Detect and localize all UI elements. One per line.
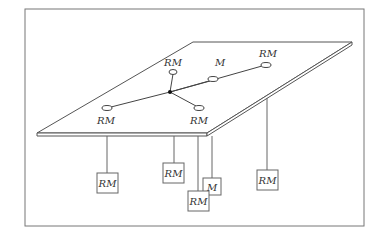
- label-rm-left: RM: [96, 115, 116, 126]
- hub-node: [168, 90, 172, 94]
- label-rm-top: RM: [163, 57, 183, 68]
- box-label-m: M: [206, 182, 218, 193]
- box-label-rm-1: RM: [98, 178, 118, 189]
- label-m: M: [214, 57, 226, 68]
- network-diagram: RM M RM RM RM RM RM M RM RM: [0, 0, 380, 242]
- node-rm-left: [102, 106, 112, 111]
- box-label-rm-4: RM: [258, 175, 278, 186]
- node-rm-right: [261, 63, 271, 68]
- label-rm-bottom: RM: [189, 115, 209, 126]
- hanging-boxes: [97, 163, 278, 211]
- node-rm-bottom: [194, 106, 204, 111]
- label-rm-right: RM: [258, 48, 278, 59]
- node-m: [208, 77, 218, 82]
- box-label-rm-2: RM: [164, 168, 184, 179]
- box-label-rm-3: RM: [189, 196, 209, 207]
- node-rm-top: [169, 70, 177, 75]
